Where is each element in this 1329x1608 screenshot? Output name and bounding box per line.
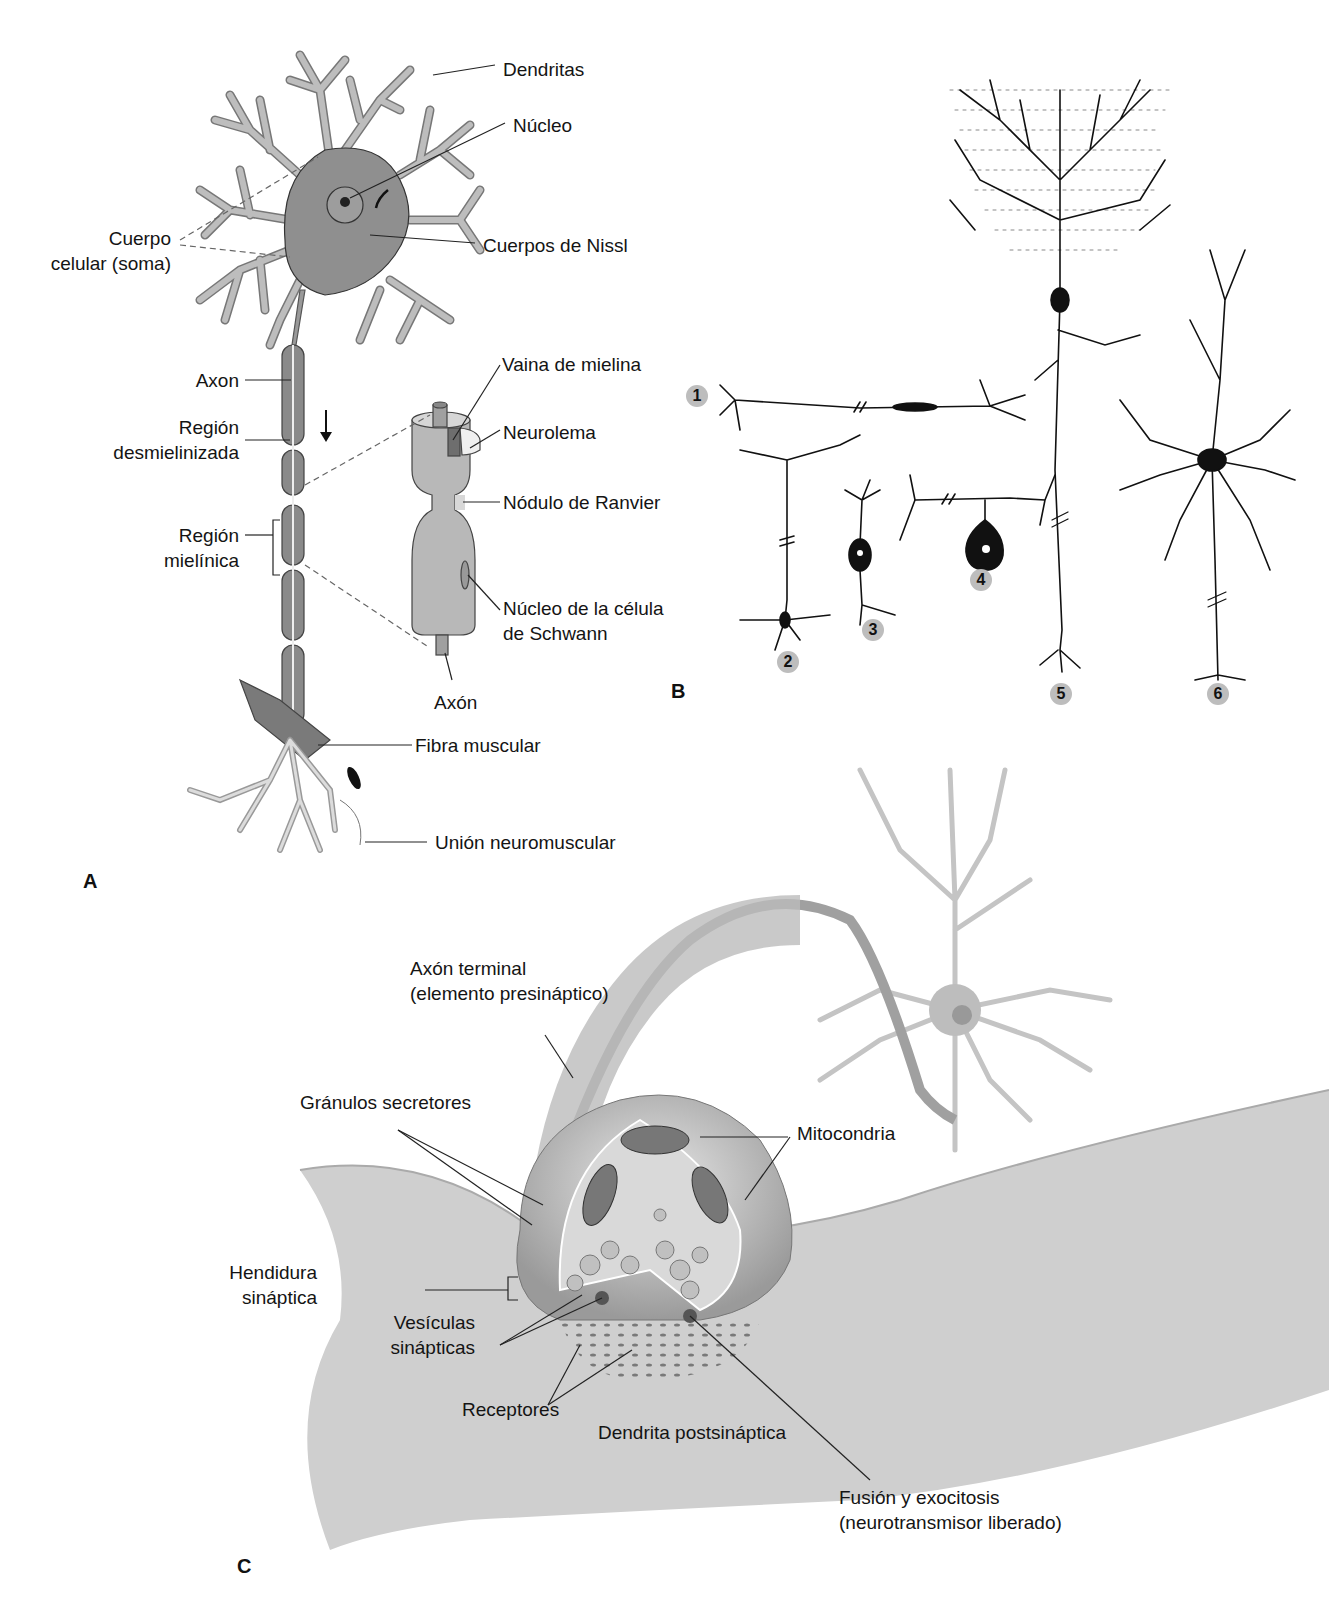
panel-b-neuron-types xyxy=(720,80,1295,680)
label-region-desmielinizada-line2: desmielinizada xyxy=(113,440,239,465)
label-neurolema: Neurolema xyxy=(503,420,596,445)
neuron-figure-illustration xyxy=(0,0,1329,1608)
badge-neuron-4: 4 xyxy=(970,569,992,591)
label-receptores: Receptores xyxy=(462,1397,559,1422)
label-vesiculas-sinapticas-line2: sinápticas xyxy=(391,1335,476,1360)
label-nucleo-schwann-line1: Núcleo de la célula xyxy=(503,596,664,621)
panel-letter-a: A xyxy=(83,870,97,893)
label-cuerpo-celular-line1: Cuerpo xyxy=(109,226,171,251)
myelin-sheath-detail xyxy=(412,402,480,655)
pyramidal-neuron xyxy=(1120,250,1295,680)
label-dendritas: Dendritas xyxy=(503,57,584,82)
label-vaina-mielina: Vaina de mielina xyxy=(502,352,641,377)
panel-c-synapse xyxy=(300,770,1329,1550)
panel-letter-b: B xyxy=(671,680,685,703)
neuron-4 xyxy=(900,475,1055,570)
label-fusion-exocitosis-line1: Fusión y exocitosis xyxy=(839,1485,1000,1510)
label-hendidura-sinaptica-line2: sináptica xyxy=(242,1285,317,1310)
label-fusion-exocitosis-line2: (neurotransmisor liberado) xyxy=(839,1510,1062,1535)
label-region-mielinica-line2: mielínica xyxy=(164,548,239,573)
label-vesiculas-sinapticas-line1: Vesículas xyxy=(394,1310,475,1335)
neuron-3 xyxy=(845,480,895,625)
label-axon-terminal-line2: (elemento presináptico) xyxy=(410,981,609,1006)
print-bleed-through xyxy=(0,0,1329,60)
neuron-2 xyxy=(740,435,860,650)
label-axon-terminal-line1: Axón terminal xyxy=(410,956,526,981)
label-dendrita-postsinaptica: Dendrita postsináptica xyxy=(598,1420,786,1445)
badge-neuron-2: 2 xyxy=(777,651,799,673)
badge-neuron-3: 3 xyxy=(862,619,884,641)
bipolar-neuron-1 xyxy=(720,380,1025,430)
badge-neuron-1: 1 xyxy=(686,385,708,407)
label-axon-detail: Axón xyxy=(434,690,477,715)
panel-letter-c: C xyxy=(237,1555,251,1578)
badge-neuron-6: 6 xyxy=(1207,683,1229,705)
label-nodulo-ranvier: Nódulo de Ranvier xyxy=(503,490,660,515)
label-union-neuromuscular: Unión neuromuscular xyxy=(435,830,616,855)
label-axon: Axon xyxy=(196,368,239,393)
label-region-desmielinizada-line1: Región xyxy=(179,415,239,440)
label-granulos-secretores: Gránulos secretores xyxy=(300,1090,471,1115)
label-nucleo: Núcleo xyxy=(513,113,572,138)
label-nucleo-schwann-line2: de Schwann xyxy=(503,621,608,646)
label-cuerpos-nissl: Cuerpos de Nissl xyxy=(483,233,628,258)
label-hendidura-sinaptica-line1: Hendidura xyxy=(229,1260,317,1285)
label-mitocondria: Mitocondria xyxy=(797,1121,895,1146)
label-cuerpo-celular-line2: celular (soma) xyxy=(51,251,171,276)
badge-neuron-5: 5 xyxy=(1050,683,1072,705)
label-fibra-muscular: Fibra muscular xyxy=(415,733,541,758)
label-region-mielinica-line1: Región xyxy=(179,523,239,548)
